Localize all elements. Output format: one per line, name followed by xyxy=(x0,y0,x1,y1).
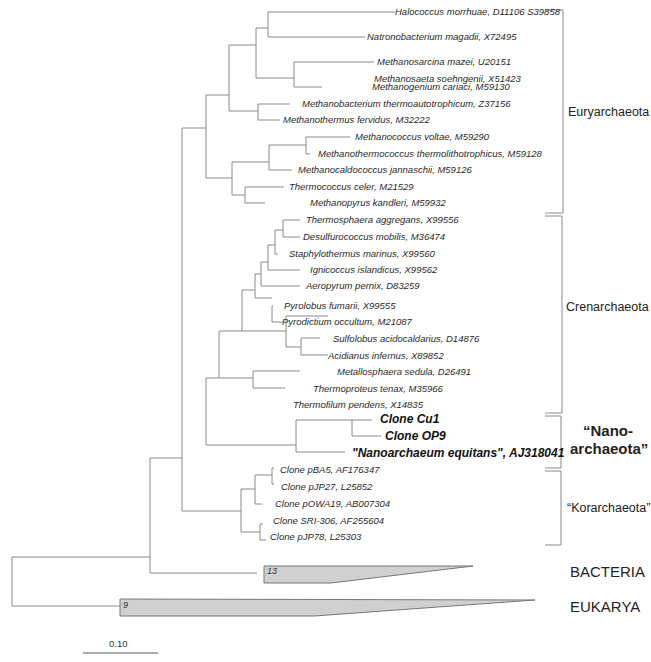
leaf-label: Metallosphaera sedula, D26491 xyxy=(337,366,471,378)
nanoarchaeota-line2: archaeota” xyxy=(570,440,646,458)
clade-label-nanoarchaeota: “Nano- archaeota” xyxy=(570,422,646,458)
euryarchaeota-bracket xyxy=(545,10,563,213)
leaf-label: Thermococcus celer, M21529 xyxy=(289,181,414,193)
leaf-label: Sulfolobus acidocaldarius, D14876 xyxy=(333,333,479,345)
leaf-label: Methanococcus voltae, M59290 xyxy=(355,131,489,143)
leaf-label: Ignicoccus islandicus, X99562 xyxy=(310,264,437,276)
leaf-label: Methanosarcina mazei, U20151 xyxy=(377,56,511,68)
clade-label-crenarchaeota: Crenarchaeota xyxy=(566,300,649,315)
leaf-label: Aeropyrum pernix, D83259 xyxy=(306,280,420,292)
leaf-label: Clone pJP78, L25303 xyxy=(270,531,361,543)
leaf-label: Thermoproteus tenax, M35966 xyxy=(313,383,443,395)
leaf-label: Clone pBA5, AF176347 xyxy=(280,464,379,476)
leaf-label: Halococcus morrhuae, D11106 S39858 xyxy=(395,6,560,18)
crenarchaeota-bracket xyxy=(545,216,562,413)
clade-label-euryarchaeota: Euryarchaeota xyxy=(568,105,649,120)
domain-label-bacteria: BACTERIA xyxy=(570,563,645,580)
leaf-label: Desulfurococcus mobilis, M36474 xyxy=(303,231,445,243)
bacteria-collapsed-count: 13 xyxy=(267,566,277,576)
nanoarchaeota-line1: “Nano- xyxy=(570,422,646,440)
leaf-label: Methanopyrus kandleri, M59932 xyxy=(310,197,446,209)
bacteria-wedge xyxy=(264,566,473,583)
leaf-label: Methanothermus fervidus, M32222 xyxy=(283,114,430,126)
domain-label-eukarya: EUKARYA xyxy=(570,598,640,615)
leaf-label: Methanothermococcus thermolithotrophicus… xyxy=(318,148,542,160)
korarchaeota-bracket xyxy=(545,471,561,545)
scale-bar-label: 0.10 xyxy=(109,638,128,649)
leaf-label: Acidianus infernus, X89852 xyxy=(328,350,444,362)
eukarya-wedge xyxy=(120,599,535,616)
leaf-label: Thermofilum pendens, X14835 xyxy=(293,399,423,411)
leaf-label: Clone OP9 xyxy=(385,430,446,442)
leaf-label: Staphylothermus marinus, X99560 xyxy=(289,248,435,260)
nanoarchaeota-bracket xyxy=(545,416,561,468)
eukarya-collapsed-count: 9 xyxy=(123,600,128,610)
leaf-label: Methanocaldococcus jannaschii, M59126 xyxy=(298,164,472,176)
leaf-label: Clone Cu1 xyxy=(380,413,439,425)
leaf-label: Clone pJP27, L25852 xyxy=(281,481,372,493)
leaf-label: Methanogenium cariaci, M59130 xyxy=(372,81,510,93)
clade-label-korarchaeota: “Korarchaeota” xyxy=(567,501,650,516)
leaf-label: Thermosphaera aggregans, X99556 xyxy=(306,214,459,226)
leaf-label: Pyrodictium occultum, M21087 xyxy=(282,316,412,328)
leaf-label: Clone pOWA19, AB007304 xyxy=(275,498,390,510)
leaf-label: Pyrolobus fumarii, X99555 xyxy=(284,300,395,312)
leaf-label: Methanobacterium thermoautotrophicum, Z3… xyxy=(302,98,511,110)
leaf-label: "Nanoarchaeum equitans", AJ318041 xyxy=(352,447,564,459)
leaf-label: Clone SRI-306, AF255604 xyxy=(273,515,384,527)
leaf-label: Natronobacterium magadii, X72495 xyxy=(367,31,516,43)
